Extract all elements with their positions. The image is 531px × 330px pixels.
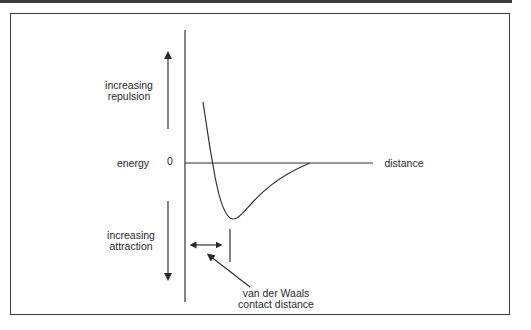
zero-label: 0	[165, 156, 175, 167]
repulsion-label: increasing repulsion	[103, 80, 155, 102]
contact-distance-label: van der Waals contact distance	[232, 288, 320, 310]
attraction-label-line2: attraction	[104, 241, 158, 252]
energy-diagram	[0, 0, 531, 330]
distance-label: distance	[380, 158, 428, 169]
repulsion-label-line2: repulsion	[103, 91, 155, 102]
energy-label: energy	[113, 158, 153, 169]
contact-distance-label-line2: contact distance	[232, 299, 320, 310]
energy-curve	[203, 102, 310, 219]
attraction-label: increasing attraction	[104, 230, 158, 252]
